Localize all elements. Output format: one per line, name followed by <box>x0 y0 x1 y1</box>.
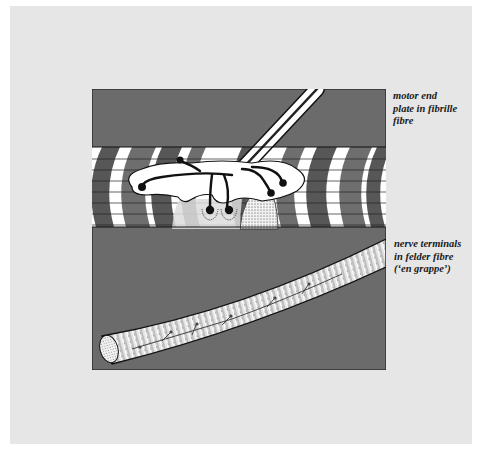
caption-line: in felder fibre <box>394 251 474 264</box>
caption-line: motor end <box>393 90 473 103</box>
caption-motor-end-plate: motor end plate in fibrille fibre <box>393 90 473 128</box>
caption-line: fibre <box>393 115 473 128</box>
figure-frame <box>92 89 386 370</box>
caption-nerve-terminals: nerve terminals in felder fibre (‘en gra… <box>394 238 474 276</box>
caption-line: nerve terminals <box>394 238 474 251</box>
sole-plate-region <box>172 199 242 229</box>
caption-line: plate in fibrille <box>393 103 473 116</box>
illustration-figure <box>92 89 386 370</box>
caption-line: (‘en grappe’) <box>394 263 474 276</box>
